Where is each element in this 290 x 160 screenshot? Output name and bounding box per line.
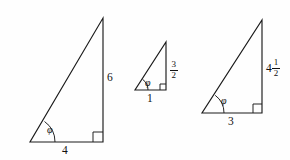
fraction-one-half: 1 2 (272, 58, 280, 79)
mixed-number-four-and-a-half: 4 1 2 (266, 58, 280, 79)
middle-triangle-angle-label: φ (145, 78, 151, 88)
right-triangle-height-label: 4 1 2 (266, 58, 280, 79)
mixed-whole-part: 4 (266, 63, 272, 75)
right-triangle-angle-label: φ (221, 96, 227, 106)
right-triangle-right-angle-marker (253, 104, 262, 113)
right-triangle-base-label: 3 (228, 116, 234, 128)
middle-triangle-right-angle-marker (160, 84, 166, 90)
left-triangle-angle-label: φ (47, 125, 53, 135)
left-triangle-right-angle-marker (93, 132, 103, 142)
fraction-denominator: 2 (272, 68, 280, 79)
right-triangle-group (202, 20, 262, 113)
left-triangle-base-label: 4 (62, 145, 68, 157)
left-triangle-outline (30, 18, 103, 142)
right-triangle-outline (202, 20, 262, 113)
middle-triangle-height-label: 3 2 (170, 54, 178, 81)
fraction-numerator: 1 (272, 58, 280, 68)
fraction-denominator: 2 (170, 70, 178, 81)
fraction-numerator: 3 (170, 60, 178, 70)
geometry-figure: φ 4 6 φ 1 3 2 φ 3 4 1 2 (0, 0, 290, 160)
left-triangle-height-label: 6 (107, 72, 113, 84)
left-triangle-group (30, 18, 103, 142)
middle-triangle-base-label: 1 (147, 93, 153, 105)
fraction-three-halves: 3 2 (170, 60, 178, 81)
